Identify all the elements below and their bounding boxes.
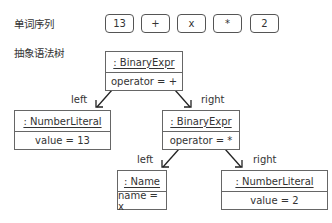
node-attr: value = 13 (15, 132, 110, 149)
node-number-literal-13: : NumberLiteral value = 13 (14, 110, 111, 150)
node-attr: operator = + (106, 73, 182, 90)
node-attr: value = 2 (222, 192, 327, 209)
edge-label-left: left (71, 94, 87, 105)
node-type: : Name (124, 176, 160, 187)
node-type: : NumberLiteral (235, 176, 313, 187)
node-attr: name = x (118, 192, 166, 209)
node-inner-binary-expr: : BinaryExpr operator = * (162, 110, 240, 150)
edge-label-right: right (253, 154, 277, 165)
node-root-binary-expr: : BinaryExpr operator = + (105, 51, 183, 91)
node-type: : NumberLiteral (23, 116, 101, 127)
node-number-literal-2: : NumberLiteral value = 2 (221, 170, 328, 210)
edge-label-right: right (201, 94, 225, 105)
node-name-x: : Name name = x (117, 170, 167, 210)
edge-label-left: left (137, 154, 153, 165)
node-type: : BinaryExpr (170, 116, 231, 127)
node-attr: operator = * (163, 132, 239, 149)
node-type: : BinaryExpr (113, 57, 174, 68)
